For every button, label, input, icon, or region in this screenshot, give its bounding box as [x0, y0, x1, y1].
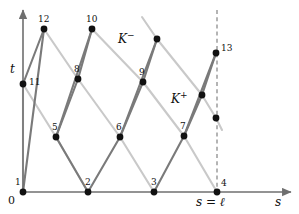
k-plus-characteristic-segment	[143, 39, 157, 82]
k-plus-characteristic-segment	[120, 82, 143, 137]
grid-point-u3[interactable]	[213, 115, 220, 122]
k-minus-label-superscript: −	[127, 30, 135, 40]
grid-point-label-12: 12	[38, 15, 49, 24]
k-plus-characteristic-segment	[88, 137, 120, 192]
k-minus-characteristic-segment	[44, 29, 78, 79]
grid-point-label-8: 8	[74, 65, 80, 74]
grid-point-label-6: 6	[116, 123, 122, 132]
grid-point-10[interactable]	[89, 26, 96, 33]
k-plus-characteristic-segment	[78, 29, 92, 79]
grid-point-1[interactable]	[20, 189, 27, 196]
grid-point-label-11: 11	[29, 78, 40, 87]
characteristics-diagram: 12345678910111213 t s 0 s = ℓ K−K+	[0, 0, 299, 214]
plot-canvas	[0, 0, 299, 214]
x-axis-label: s	[275, 196, 281, 208]
grid-point-label-7: 7	[180, 122, 186, 131]
grid-point-u2[interactable]	[199, 92, 206, 99]
grid-point-7[interactable]	[181, 133, 188, 140]
k-plus-characteristic-curves	[23, 29, 216, 192]
k-minus-label-base: K	[118, 32, 127, 46]
grid-point-5[interactable]	[53, 134, 60, 141]
grid-point-label-5: 5	[52, 123, 58, 132]
k-minus-label: K−	[118, 31, 135, 45]
k-minus-characteristic-segment	[184, 136, 217, 192]
k-minus-characteristic-segment	[202, 95, 216, 118]
grid-point-8[interactable]	[75, 76, 82, 83]
k-plus-characteristic-segment	[202, 53, 216, 95]
grid-point-13[interactable]	[213, 50, 220, 57]
origin-label: 0	[8, 195, 15, 206]
k-minus-characteristic-segment	[120, 137, 154, 192]
k-plus-characteristic-segment	[23, 29, 44, 192]
grid-point-9[interactable]	[140, 79, 147, 86]
grid-point-label-1: 1	[15, 178, 21, 187]
grid-point-u1[interactable]	[154, 36, 161, 43]
grid-point-label-2: 2	[85, 178, 91, 187]
grid-point-12[interactable]	[41, 26, 48, 33]
grid-point-3[interactable]	[151, 189, 158, 196]
grid-point-label-9: 9	[139, 68, 145, 77]
boundary-label: s = ℓ	[196, 196, 225, 208]
y-axis-label: t	[10, 63, 15, 75]
k-minus-characteristic-segment	[157, 39, 202, 95]
k-minus-characteristic-segment	[78, 79, 120, 137]
grid-point-label-3: 3	[151, 178, 157, 187]
k-plus-label-superscript: +	[180, 90, 188, 100]
k-minus-characteristic-segment	[142, 17, 157, 39]
k-plus-label-base: K	[171, 92, 180, 106]
grid-point-2[interactable]	[85, 189, 92, 196]
grid-point-6[interactable]	[117, 134, 124, 141]
k-plus-characteristic-segment	[154, 136, 184, 192]
grid-points	[20, 26, 221, 196]
grid-point-label-4: 4	[221, 179, 227, 188]
grid-point-label-10: 10	[86, 15, 97, 24]
grid-point-label-13: 13	[221, 44, 232, 53]
grid-point-11[interactable]	[20, 81, 27, 88]
k-plus-label: K+	[171, 91, 188, 105]
k-plus-characteristic-segment	[56, 79, 78, 137]
k-plus-characteristic-segment	[56, 137, 88, 192]
